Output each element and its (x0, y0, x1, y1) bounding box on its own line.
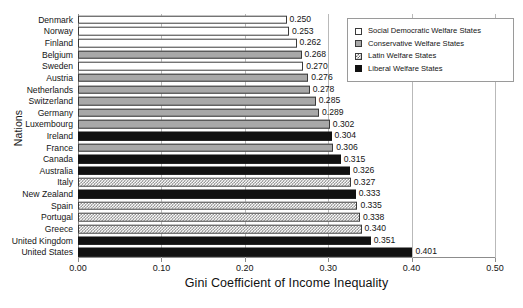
category-label: Greece (45, 225, 73, 234)
category-label: Netherlands (27, 85, 73, 94)
bar[interactable]: 0.278 (78, 85, 310, 94)
bar-value-label: 0.253 (292, 27, 314, 36)
legend-label: Conservative Welfare States (368, 40, 464, 48)
bar-row: Greece0.340 (78, 223, 495, 235)
bar-value-label: 0.304 (335, 132, 357, 141)
category-label: Germany (38, 108, 73, 117)
bar-row: United States0.401 (78, 246, 495, 258)
legend-item[interactable]: Liberal Welfare States (355, 63, 507, 76)
bar-value-label: 0.276 (311, 74, 333, 83)
bar-row: Italy0.327 (78, 177, 495, 189)
x-tick-label: 0.20 (236, 263, 254, 273)
x-tick-mark (161, 258, 162, 262)
bar[interactable]: 0.253 (78, 27, 289, 36)
bar[interactable]: 0.340 (78, 225, 362, 234)
bar-value-label: 0.302 (333, 120, 355, 129)
bar-value-label: 0.335 (360, 201, 382, 210)
bar-value-label: 0.327 (354, 178, 376, 187)
legend-item[interactable]: Latin Welfare States (355, 50, 507, 63)
category-label: France (46, 143, 73, 152)
bar-value-label: 0.340 (365, 225, 387, 234)
bar-value-label: 0.285 (319, 97, 341, 106)
bar[interactable]: 0.289 (78, 108, 319, 117)
category-label: Ireland (47, 132, 73, 141)
bar[interactable]: 0.327 (78, 178, 351, 187)
bar[interactable]: 0.270 (78, 62, 303, 71)
bar[interactable]: 0.276 (78, 74, 308, 83)
bar-value-label: 0.278 (313, 85, 335, 94)
bar[interactable]: 0.304 (78, 132, 332, 141)
bar-row: Switzerland0.285 (78, 95, 495, 107)
bar[interactable]: 0.285 (78, 97, 316, 106)
legend-label: Social Democratic Welfare States (368, 27, 481, 35)
x-axis-title: Gini Coefficient of Income Inequality (78, 276, 495, 290)
category-label: Portugal (41, 213, 73, 222)
x-tick-label: 0.00 (69, 263, 87, 273)
bar[interactable]: 0.306 (78, 143, 333, 152)
legend-swatch-icon (355, 65, 362, 72)
bar[interactable]: 0.333 (78, 190, 356, 199)
category-label: Denmark (38, 16, 73, 25)
bar-row: France0.306 (78, 142, 495, 154)
bar-value-label: 0.338 (363, 213, 385, 222)
bar[interactable]: 0.262 (78, 39, 297, 48)
x-tick-mark (412, 258, 413, 262)
bar[interactable]: 0.250 (78, 16, 287, 25)
bar-row: Germany0.289 (78, 107, 495, 119)
x-tick-mark (78, 258, 79, 262)
legend-label: Latin Welfare States (368, 52, 436, 60)
bar[interactable]: 0.338 (78, 213, 360, 222)
y-axis-title: Nations (12, 88, 24, 168)
legend: Social Democratic Welfare StatesConserva… (347, 18, 514, 82)
category-label: Switzerland (29, 97, 73, 106)
bar-row: Spain0.335 (78, 200, 495, 212)
x-tick-label: 0.10 (153, 263, 171, 273)
legend-item[interactable]: Social Democratic Welfare States (355, 25, 507, 38)
bar-value-label: 0.250 (290, 16, 312, 25)
bar-value-label: 0.262 (300, 39, 322, 48)
bar-row: Canada0.315 (78, 153, 495, 165)
bar[interactable]: 0.315 (78, 155, 341, 164)
category-label: Austria (46, 74, 73, 83)
bar-value-label: 0.270 (306, 62, 328, 71)
gini-bar-chart: Nations Denmark0.250Norway0.253Finland0.… (0, 0, 523, 308)
bar[interactable]: 0.302 (78, 120, 330, 129)
x-tick-label: 0.40 (403, 263, 421, 273)
category-label: Finland (45, 39, 73, 48)
x-tick-label: 0.30 (319, 263, 337, 273)
category-label: New Zealand (22, 190, 73, 199)
category-label: Belgium (42, 50, 73, 59)
x-tick-mark (495, 258, 496, 262)
category-label: Spain (51, 201, 73, 210)
category-label: United Kingdom (12, 236, 73, 245)
bar[interactable]: 0.351 (78, 236, 371, 245)
bar-value-label: 0.289 (322, 108, 344, 117)
bar-value-label: 0.326 (353, 167, 375, 176)
legend-item[interactable]: Conservative Welfare States (355, 38, 507, 51)
category-label: Australia (40, 167, 73, 176)
bar-row: Luxembourg0.302 (78, 119, 495, 131)
category-label: Norway (44, 27, 73, 36)
bar-value-label: 0.351 (374, 236, 396, 245)
legend-label: Liberal Welfare States (368, 65, 443, 73)
category-label: United States (21, 248, 73, 257)
bar-value-label: 0.315 (344, 155, 366, 164)
x-tick-label: 0.50 (486, 263, 504, 273)
bar[interactable]: 0.326 (78, 167, 350, 176)
legend-swatch-icon (355, 28, 362, 35)
bar-row: Netherlands0.278 (78, 84, 495, 96)
bar-row: Portugal0.338 (78, 212, 495, 224)
category-label: Canada (43, 155, 73, 164)
bar-row: United Kingdom0.351 (78, 235, 495, 247)
x-tick-mark (245, 258, 246, 262)
bar[interactable]: 0.268 (78, 50, 302, 59)
category-label: Italy (57, 178, 73, 187)
bar[interactable]: 0.335 (78, 201, 357, 210)
category-label: Luxembourg (25, 120, 73, 129)
legend-swatch-icon (355, 40, 362, 47)
bar-value-label: 0.401 (415, 248, 437, 257)
category-label: Sweden (42, 62, 73, 71)
bar[interactable]: 0.401 (78, 248, 412, 257)
bar-value-label: 0.333 (359, 190, 381, 199)
x-tick-mark (328, 258, 329, 262)
